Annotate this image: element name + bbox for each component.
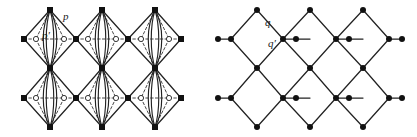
label-q-prime: q′ — [268, 38, 276, 49]
left-panel-bundled-lattice — [21, 7, 184, 130]
figure-container: p p′ q q′ — [0, 0, 417, 137]
label-p: p — [63, 11, 69, 22]
right-panel-simple-lattice — [215, 7, 405, 130]
left-solid-nodes — [21, 7, 184, 130]
label-p-prime: p′ — [42, 30, 50, 41]
label-q: q — [265, 17, 271, 28]
